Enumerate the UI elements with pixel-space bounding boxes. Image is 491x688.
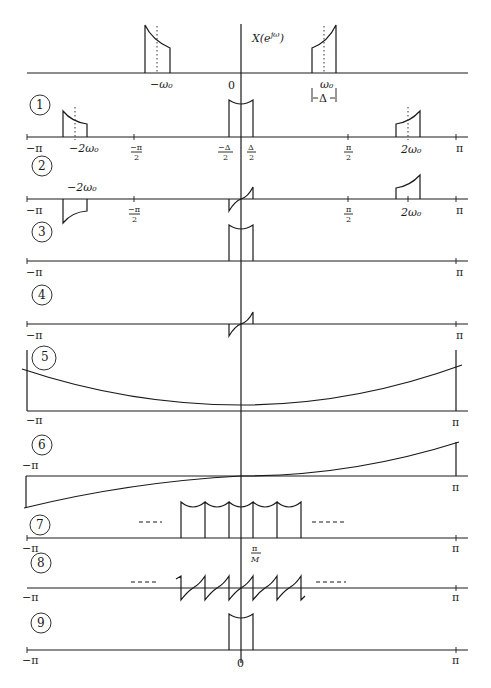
panel-number: 3 [38,225,46,239]
panel-1: 1 −π −2ω₀ −π 2 −Δ 2 Δ 2 π 2 2ω₀ π [26,95,468,162]
panel-number: 7 [36,518,44,532]
svg-text:π: π [252,544,257,553]
zero-label: 0 [228,79,235,92]
delta-label: Δ [319,92,327,105]
svg-text:2ω₀: 2ω₀ [400,143,422,156]
svg-text:2: 2 [134,153,139,162]
svg-text:−π: −π [22,591,38,604]
svg-text:−π: −π [22,542,38,555]
svg-text:2: 2 [346,153,351,162]
neg-band [145,25,170,73]
svg-text:−π: −π [26,329,42,342]
panel-6: 6 −π π [22,435,468,508]
svg-text:π: π [452,416,459,429]
svg-text:π: π [456,266,463,279]
svg-text:π: π [456,204,463,217]
magnitude-curve [22,365,462,405]
svg-text:π: π [456,142,463,155]
spectrum-title: X(ejω) [251,30,284,45]
svg-text:−Δ: −Δ [218,143,231,152]
panel-7: 7 −π π M π [22,502,468,564]
svg-text:−π: −π [26,414,42,427]
spectrum-diagram: X(ejω) −ω₀ 0 ω₀ Δ 1 −π −2ω₀ −π 2 −Δ 2 Δ … [0,0,491,688]
svg-text:2: 2 [132,215,137,224]
panel-4: 4 −π π [26,285,468,342]
panel-number: 6 [38,438,46,452]
svg-text:Δ: Δ [248,143,254,152]
panel-number: 4 [38,288,46,302]
svg-text:2: 2 [223,153,228,162]
panel-number: 2 [38,159,46,173]
panel-number: 8 [37,556,45,570]
svg-text:−π: −π [22,654,38,667]
svg-text:−π: −π [22,459,38,472]
svg-text:−π: −π [26,142,42,155]
top-spectrum: X(ejω) −ω₀ 0 ω₀ Δ [27,25,468,105]
svg-text:M: M [250,555,260,564]
panel-2: 2 −2ω₀ −π −π 2 π 2 2ω₀ π [26,156,468,224]
neg-w0-label: −ω₀ [150,78,173,91]
pos-band [312,25,336,73]
svg-text:−2ω₀: −2ω₀ [69,142,99,155]
svg-text:2ω₀: 2ω₀ [400,206,422,219]
panel-8: 8 −π π [22,553,468,604]
svg-text:π: π [456,329,463,342]
svg-text:2: 2 [249,153,254,162]
band-neg-2w0 [63,199,87,223]
panel-3: 3 −π π [26,222,468,279]
svg-text:π: π [452,591,459,604]
svg-text:π: π [452,542,459,555]
panel-9: 9 −π 0 π [22,613,468,670]
svg-text:−2ω₀: −2ω₀ [67,181,97,194]
svg-text:π: π [346,205,351,214]
panel-5: 5 −π π [22,346,468,429]
svg-text:2: 2 [346,215,351,224]
svg-text:π: π [452,654,459,667]
svg-text:−π: −π [128,205,140,214]
svg-text:π: π [346,143,351,152]
w0-label: ω₀ [320,78,334,91]
svg-text:−π: −π [130,143,142,152]
panel-number: 9 [37,616,45,630]
svg-text:−π: −π [26,204,42,217]
panel-number: 1 [36,98,44,112]
svg-text:0: 0 [237,657,244,670]
band-pos-2w0 [396,175,420,199]
svg-text:−π: −π [26,266,42,279]
panel-number: 5 [41,350,49,364]
svg-text:π: π [452,481,459,494]
